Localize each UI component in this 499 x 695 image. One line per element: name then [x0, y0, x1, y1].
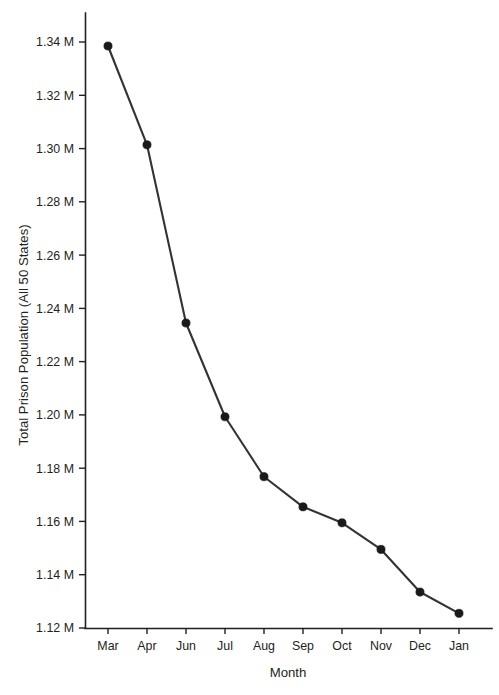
data-point-nov [377, 545, 385, 553]
x-tick-label: Apr [137, 639, 156, 653]
data-point-jan [455, 609, 463, 617]
y-tick-label: 1.28 M [36, 195, 74, 209]
y-tick-group: 1.18 M [36, 462, 85, 476]
x-tick-group: Oct [332, 628, 352, 653]
x-tick-group: Apr [137, 628, 156, 653]
x-tick-group: Aug [253, 628, 275, 653]
chart-figure: 1.12 M 1.14 M 1.16 M 1.18 M 1.20 M 1.22 … [0, 0, 499, 695]
y-tick-label: 1.30 M [36, 142, 74, 156]
x-tick-label: Oct [332, 639, 352, 653]
x-tick-label: Dec [409, 639, 431, 653]
x-tick-group: Jun [176, 628, 196, 653]
y-tick-label: 1.34 M [36, 35, 74, 49]
y-tick-group: 1.24 M [36, 302, 85, 316]
data-point-sep [299, 503, 307, 511]
y-tick-group: 1.20 M [36, 408, 85, 422]
x-axis-ticks: Mar Apr Jun Jul Aug Sep [97, 628, 469, 653]
y-tick-group: 1.12 M [36, 621, 85, 635]
y-axis-ticks: 1.12 M 1.14 M 1.16 M 1.18 M 1.20 M 1.22 … [36, 35, 85, 635]
y-tick-group: 1.22 M [36, 355, 85, 369]
line-chart: 1.12 M 1.14 M 1.16 M 1.18 M 1.20 M 1.22 … [0, 0, 499, 695]
x-axis-title: Month [270, 665, 307, 680]
y-tick-label: 1.16 M [36, 515, 74, 529]
x-tick-label: Mar [97, 639, 118, 653]
x-tick-group: Sep [292, 628, 314, 653]
x-tick-group: Mar [97, 628, 118, 653]
y-tick-group: 1.16 M [36, 515, 85, 529]
y-tick-label: 1.14 M [36, 568, 74, 582]
y-tick-label: 1.22 M [36, 355, 74, 369]
y-tick-label: 1.32 M [36, 89, 74, 103]
plot-area-background [85, 13, 492, 628]
data-point-mar [104, 42, 112, 50]
y-tick-group: 1.14 M [36, 568, 85, 582]
data-point-jun [182, 319, 190, 327]
x-tick-group: Nov [370, 628, 393, 653]
data-point-jul [221, 413, 229, 421]
x-tick-group: Jan [449, 628, 469, 653]
y-tick-group: 1.34 M [36, 35, 85, 49]
data-point-apr [143, 141, 151, 149]
data-point-aug [260, 473, 268, 481]
y-tick-label: 1.24 M [36, 302, 74, 316]
y-tick-label: 1.26 M [36, 249, 74, 263]
x-tick-label: Jun [176, 639, 196, 653]
data-point-oct [338, 519, 346, 527]
x-tick-label: Nov [370, 639, 393, 653]
x-tick-group: Dec [409, 628, 431, 653]
y-axis-title: Total Prison Population (All 50 States) [16, 224, 31, 445]
x-tick-label: Sep [292, 639, 314, 653]
x-tick-group: Jul [217, 628, 233, 653]
y-tick-group: 1.28 M [36, 195, 85, 209]
y-tick-group: 1.26 M [36, 249, 85, 263]
x-tick-label: Aug [253, 639, 275, 653]
y-tick-label: 1.20 M [36, 408, 74, 422]
data-point-dec [416, 588, 424, 596]
y-tick-label: 1.18 M [36, 462, 74, 476]
y-tick-group: 1.30 M [36, 142, 85, 156]
x-tick-label: Jul [217, 639, 233, 653]
y-tick-label: 1.12 M [36, 621, 74, 635]
y-tick-group: 1.32 M [36, 89, 85, 103]
x-tick-label: Jan [449, 639, 469, 653]
